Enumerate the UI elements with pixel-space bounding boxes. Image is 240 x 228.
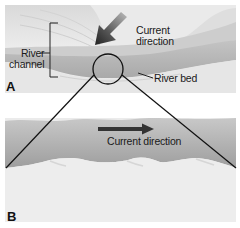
panel-b-illustration bbox=[5, 118, 236, 222]
river-bed-label: River bed bbox=[154, 73, 197, 84]
river-channel-label-line2: channel bbox=[9, 59, 44, 70]
current-direction-label-b: Current direction bbox=[107, 136, 181, 147]
panel-a-letter: A bbox=[6, 79, 15, 94]
panel-b-letter: B bbox=[7, 209, 16, 224]
river-channel-label: River channel bbox=[14, 48, 44, 70]
current-direction-label-a: Current direction bbox=[136, 25, 174, 47]
panel-a-illustration bbox=[0, 0, 240, 228]
current-direction-label-a-line2: direction bbox=[136, 36, 174, 47]
